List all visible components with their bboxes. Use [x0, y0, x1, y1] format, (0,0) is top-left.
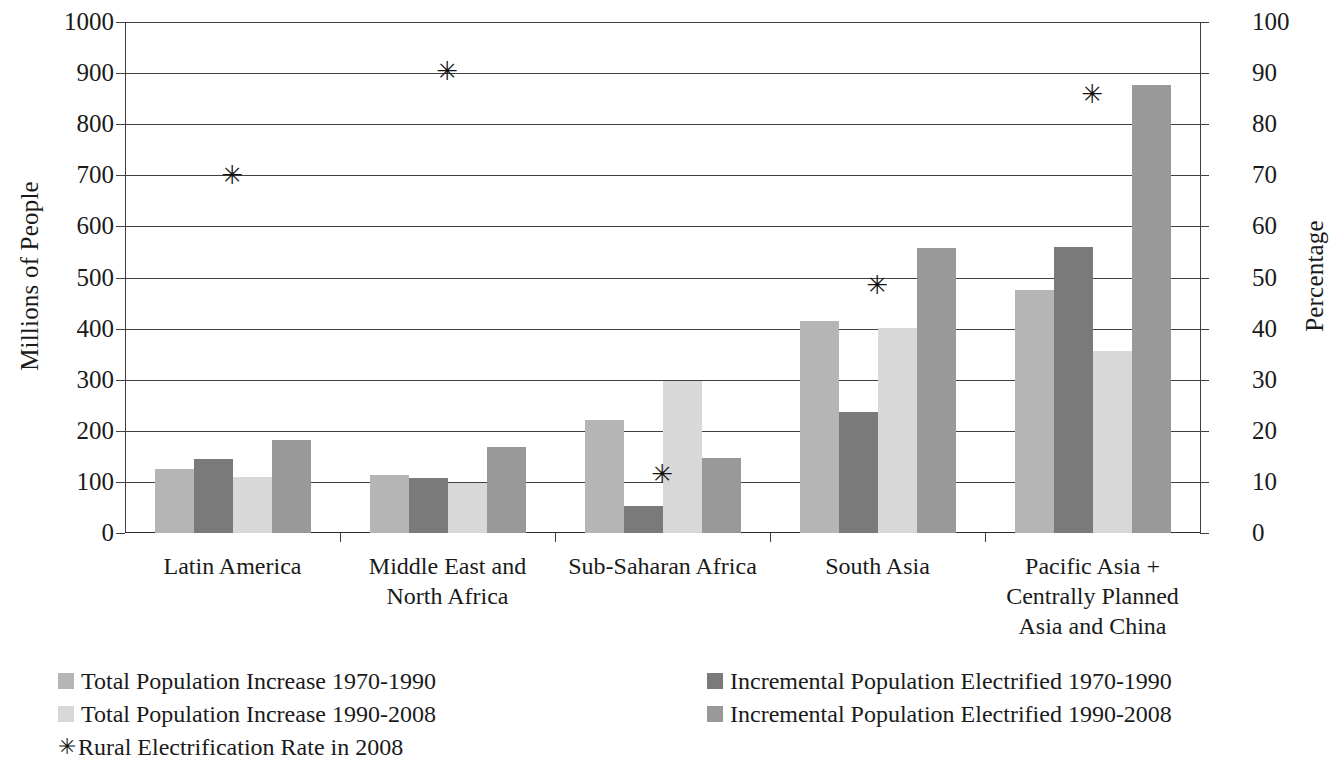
gridline [125, 73, 1200, 74]
legend-item[interactable]: ✳Rural Electrification Rate in 2008 [58, 730, 436, 762]
y-axis-right-tickmark [1200, 533, 1209, 534]
y-axis-left-tickmark [116, 533, 125, 534]
legend-item-label: Total Population Increase 1990-2008 [81, 701, 436, 727]
gridline [125, 22, 1200, 23]
bar [1015, 290, 1054, 533]
legend-marker-icon: ✳ [58, 736, 74, 758]
y-axis-right-tick-label: 10 [1252, 469, 1277, 494]
legend-column-left: Total Population Increase 1970-1990Total… [58, 664, 436, 762]
y-axis-right-tickmark [1200, 278, 1209, 279]
y-axis-left-tick-label: 800 [77, 111, 115, 136]
bar [702, 458, 741, 533]
y-axis-left-title: Millions of People [16, 126, 44, 426]
y-axis-right-tickmark [1200, 124, 1209, 125]
y-axis-right-tick-label: 40 [1252, 316, 1277, 341]
legend-item[interactable]: Incremental Population Electrified 1970-… [707, 664, 1172, 697]
rural-electrification-marker: ✳ [1080, 81, 1106, 107]
bar [839, 412, 878, 533]
bar [878, 328, 917, 533]
y-axis-left-tickmark [116, 482, 125, 483]
bar [155, 469, 194, 533]
x-axis-category-label-line: North Africa [340, 581, 555, 611]
x-axis-category-label: Pacific Asia +Centrally PlannedAsia and … [985, 551, 1200, 641]
y-axis-left-tickmark [116, 431, 125, 432]
y-axis-right-tick-label: 20 [1252, 418, 1277, 443]
bar [585, 420, 624, 533]
y-axis-right-title: Percentage [1301, 126, 1329, 426]
bar [194, 459, 233, 533]
y-axis-left-tick-label: 400 [77, 316, 115, 341]
legend-item-label: Incremental Population Electrified 1970-… [730, 668, 1172, 694]
x-axis-category-label: South Asia [770, 551, 985, 581]
bar [1132, 85, 1171, 533]
x-axis-category-label-line: Latin America [125, 551, 340, 581]
gridline [125, 175, 1200, 176]
legend-item[interactable]: Incremental Population Electrified 1990-… [707, 697, 1172, 730]
x-axis-category-label: Middle East andNorth Africa [340, 551, 555, 611]
chart-legend: Total Population Increase 1970-1990Total… [0, 664, 1311, 762]
bar [1054, 247, 1093, 533]
gridline [125, 278, 1200, 279]
x-axis-category-label-line: Sub-Saharan Africa [555, 551, 770, 581]
legend-swatch-icon [58, 706, 74, 722]
y-axis-left-line [125, 22, 126, 533]
legend-swatch-icon [707, 673, 723, 689]
bar [917, 248, 956, 533]
bar [800, 321, 839, 533]
y-axis-left-tick-label: 500 [77, 265, 115, 290]
y-axis-left-tick-label: 200 [77, 418, 115, 443]
rural-electrification-marker: ✳ [650, 461, 676, 487]
bar [272, 440, 311, 534]
y-axis-right-tick-label: 100 [1252, 9, 1290, 34]
legend-item-label: Incremental Population Electrified 1990-… [730, 701, 1172, 727]
y-axis-right-tick-label: 30 [1252, 367, 1277, 392]
legend-item[interactable]: Total Population Increase 1990-2008 [58, 697, 436, 730]
y-axis-left-tickmark [116, 329, 125, 330]
gridline [125, 124, 1200, 125]
legend-swatch-icon [58, 673, 74, 689]
category-separator-tick [985, 533, 986, 542]
rural-electrification-marker: ✳ [865, 272, 891, 298]
x-axis-category-label-line: South Asia [770, 551, 985, 581]
bar [487, 447, 526, 533]
category-separator-tick [555, 533, 556, 542]
legend-item-label: Total Population Increase 1970-1990 [81, 668, 436, 694]
y-axis-left-tick-label: 600 [77, 213, 115, 238]
legend-item[interactable]: Total Population Increase 1970-1990 [58, 664, 436, 697]
x-axis-category-label-line: Asia and China [985, 611, 1200, 641]
y-axis-left-tick-label: 0 [102, 520, 115, 545]
y-axis-left-tick-label: 1000 [64, 9, 114, 34]
category-separator-tick [770, 533, 771, 542]
y-axis-right-tickmark [1200, 22, 1209, 23]
y-axis-right-tickmark [1200, 73, 1209, 74]
gridline [125, 226, 1200, 227]
rural-electrification-marker: ✳ [220, 162, 246, 188]
bar [409, 478, 448, 533]
rural-electrification-marker: ✳ [435, 58, 461, 84]
x-axis-category-label: Latin America [125, 551, 340, 581]
y-axis-left-tick-label: 300 [77, 367, 115, 392]
bar [663, 381, 702, 533]
legend-swatch-icon [707, 706, 723, 722]
x-axis-category-label-line: Pacific Asia + [985, 551, 1200, 581]
x-axis-category-label: Sub-Saharan Africa [555, 551, 770, 581]
y-axis-left-tickmark [116, 278, 125, 279]
y-axis-right-tick-label: 70 [1252, 162, 1277, 187]
legend-column-right: Incremental Population Electrified 1970-… [707, 664, 1172, 730]
y-axis-left-tick-label: 900 [77, 60, 115, 85]
y-axis-left-tickmark [116, 380, 125, 381]
y-axis-right-tickmark [1200, 482, 1209, 483]
y-axis-right-tick-label: 50 [1252, 265, 1277, 290]
x-axis-category-label-line: Middle East and [340, 551, 555, 581]
y-axis-right-tickmark [1200, 175, 1209, 176]
bar [233, 477, 272, 533]
y-axis-left-tickmark [116, 226, 125, 227]
category-separator-tick [340, 533, 341, 542]
y-axis-left-tickmark [116, 73, 125, 74]
y-axis-left-tickmark [116, 124, 125, 125]
y-axis-right-tick-label: 80 [1252, 111, 1277, 136]
bar [1093, 351, 1132, 533]
y-axis-right-tick-label: 0 [1252, 520, 1265, 545]
y-axis-left-tick-label: 700 [77, 162, 115, 187]
